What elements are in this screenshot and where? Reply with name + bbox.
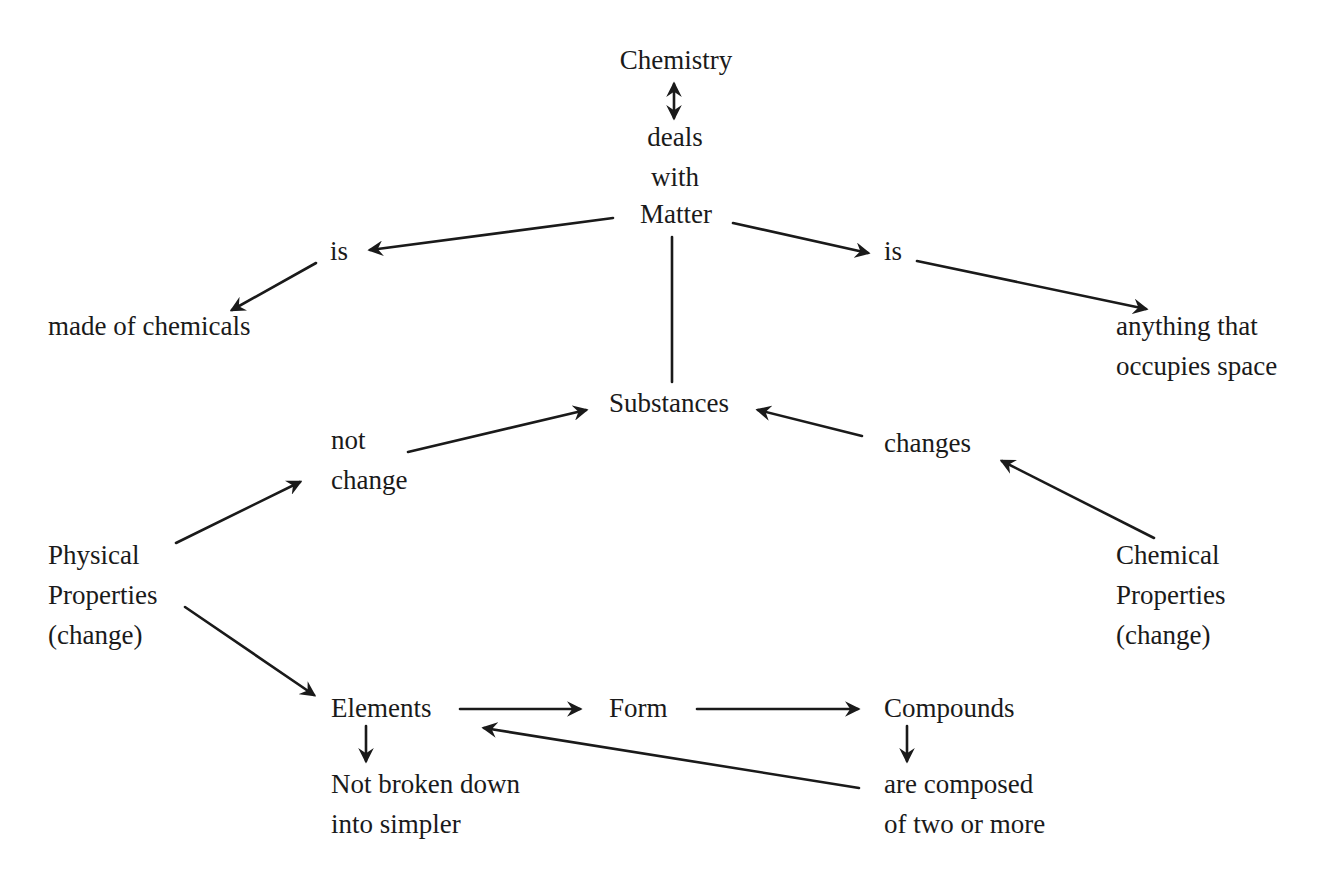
edge-changes-substances (758, 410, 862, 436)
node-label: are composed (884, 764, 1045, 804)
node-label: change (331, 460, 407, 500)
node-label: occupies space (1116, 346, 1277, 386)
edge-physical-not-change (176, 482, 300, 543)
node-elements: Elements (331, 688, 431, 728)
node-label: is (330, 231, 348, 271)
node-is-left: is (330, 231, 348, 271)
node-label: Chemical (1116, 535, 1225, 575)
node-is-right: is (884, 231, 902, 271)
node-chemical-properties: Chemical Properties (change) (1116, 535, 1225, 655)
node-label: Properties (48, 575, 157, 615)
node-label: anything that (1116, 306, 1277, 346)
edge-not-change-substances (408, 410, 586, 452)
node-label: (change) (48, 615, 157, 655)
node-physical-properties: Physical Properties (change) (48, 535, 157, 655)
node-changes: changes (884, 423, 971, 463)
edge-matter-is-left (370, 218, 613, 250)
edge-physical-elements (185, 607, 314, 695)
node-label: made of chemicals (48, 306, 250, 346)
edge-composed-elements (484, 728, 859, 788)
node-label: Form (609, 688, 668, 728)
node-label: Not broken down (331, 764, 520, 804)
node-label: of two or more (884, 804, 1045, 844)
node-label: Properties (1116, 575, 1225, 615)
edge-matter-is-right (733, 223, 868, 253)
node-label: Physical (48, 535, 157, 575)
node-anything-occupies-space: anything that occupies space (1116, 306, 1277, 386)
node-label: into simpler (331, 804, 520, 844)
node-label: Matter (640, 194, 712, 234)
node-label: is (884, 231, 902, 271)
node-substances: Substances (609, 383, 729, 423)
node-are-composed: are composed of two or more (884, 764, 1045, 844)
edge-is-anything-space (917, 261, 1146, 309)
node-label: changes (884, 423, 971, 463)
node-label: Elements (331, 688, 431, 728)
node-not-change: not change (331, 420, 407, 500)
node-label: with (647, 157, 702, 197)
node-matter: Matter (640, 194, 712, 234)
node-made-of-chemicals: made of chemicals (48, 306, 250, 346)
node-label: not (331, 420, 407, 460)
node-label: (change) (1116, 615, 1225, 655)
edge-chemical-changes (1002, 461, 1154, 538)
edge-is-made-of-chemicals (232, 263, 316, 310)
node-not-broken-down: Not broken down into simpler (331, 764, 520, 844)
node-chemistry: Chemistry (620, 40, 733, 80)
node-label: Compounds (884, 688, 1015, 728)
node-form: Form (609, 688, 668, 728)
node-label: Substances (609, 383, 729, 423)
node-label: Chemistry (620, 40, 733, 80)
chemistry-concept-map: Chemistry deals with Matter is made of c… (0, 0, 1335, 885)
node-compounds: Compounds (884, 688, 1015, 728)
node-label: deals (647, 117, 702, 157)
node-deals-with: deals with (647, 117, 702, 197)
